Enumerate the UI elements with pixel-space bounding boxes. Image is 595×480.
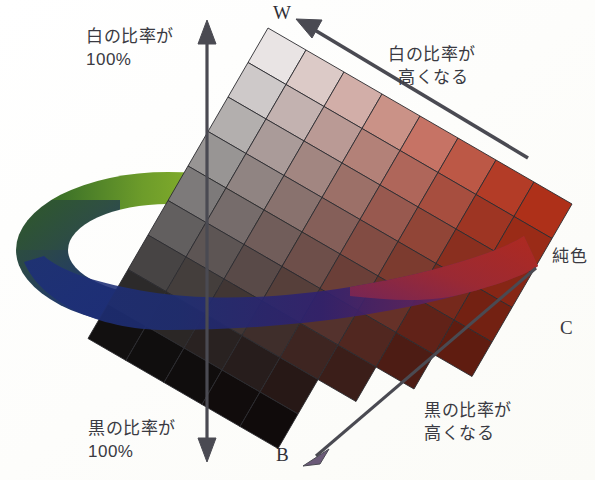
label-pure-color: 純色 C [552, 200, 587, 386]
pure-color-label-en: C [560, 315, 587, 341]
label-white-ratio-100: 白の比率が 100% [86, 26, 174, 72]
label-white-ratio-increases: 白の比率が 高くなる [388, 44, 476, 90]
white-vertex-label: W [273, 2, 291, 24]
color-solid-diagram: 白の比率が 100% 黒の比率が 100% 白の比率が 高くなる 黒の比率が 高… [0, 0, 595, 480]
black-vertex-label: B [276, 444, 289, 466]
label-black-ratio-increases: 黒の比率が 高くなる [424, 400, 512, 446]
label-black-ratio-100: 黒の比率が 100% [88, 418, 176, 464]
pure-color-label-jp: 純色 [552, 246, 587, 269]
